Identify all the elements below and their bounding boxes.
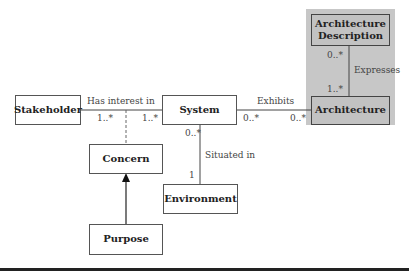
has-interest-in-label: Has interest in xyxy=(87,96,155,106)
situated-mult-system: 0..* xyxy=(185,128,201,138)
exhibits-mult-architecture: 0..* xyxy=(290,113,306,123)
purpose-class: Purpose xyxy=(89,224,163,255)
environment-class: Environment xyxy=(163,184,238,214)
concern-class: Concern xyxy=(89,144,163,174)
purpose-label: Purpose xyxy=(103,233,149,246)
stakeholder-label: Stakeholder xyxy=(14,104,82,117)
expresses-label: Expresses xyxy=(354,65,400,75)
architecture-description-label: Architecture Description xyxy=(312,18,389,43)
system-label: System xyxy=(179,104,219,117)
expresses-mult-architecture: 1..* xyxy=(327,84,343,94)
exhibits-label: Exhibits xyxy=(257,96,294,106)
concern-label: Concern xyxy=(103,153,150,166)
architecture-description-class: Architecture Description xyxy=(311,14,390,46)
exhibits-mult-system: 0..* xyxy=(243,113,259,123)
expresses-mult-description: 0..* xyxy=(327,50,343,60)
stakeholder-class: Stakeholder xyxy=(15,95,81,125)
architecture-class: Architecture xyxy=(311,96,390,125)
bottom-rule xyxy=(0,268,409,271)
situated-mult-environment: 1 xyxy=(189,170,195,180)
system-class: System xyxy=(162,95,237,125)
has-interest-mult-system: 1..* xyxy=(142,113,158,123)
environment-label: Environment xyxy=(164,193,237,206)
has-interest-mult-stakeholder: 1..* xyxy=(97,113,113,123)
architecture-label: Architecture xyxy=(315,104,386,117)
situated-in-label: Situated in xyxy=(205,150,255,160)
